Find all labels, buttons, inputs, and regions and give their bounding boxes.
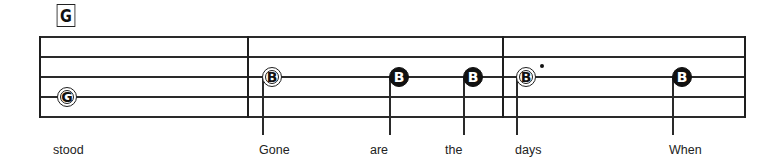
- barline-measure-1: [247, 36, 249, 118]
- staff-line-2: [39, 56, 746, 58]
- lyric-word: the: [445, 143, 462, 157]
- music-staff: G B B B B B: [0, 0, 784, 165]
- note-head-b-open: B: [262, 67, 282, 87]
- note-stem: [262, 77, 264, 135]
- note-head-b-open-dotted: B: [516, 67, 536, 87]
- barline-start: [39, 36, 41, 118]
- note-stem: [463, 77, 465, 135]
- note-head-b-filled: B: [389, 67, 409, 87]
- barline-end: [744, 36, 746, 118]
- staff-line-4: [39, 96, 746, 98]
- note-stem: [516, 77, 518, 135]
- note-letter: B: [267, 69, 278, 85]
- note-letter: B: [677, 69, 688, 85]
- note-head-g-open: G: [57, 87, 77, 107]
- staff-line-1: [39, 36, 746, 38]
- staff-line-5: [39, 116, 746, 118]
- lyric-word: When: [669, 143, 702, 157]
- note-letter: B: [468, 69, 479, 85]
- note-stem: [389, 77, 391, 135]
- augmentation-dot: [540, 64, 544, 68]
- note-letter: B: [521, 69, 532, 85]
- note-letter: B: [394, 69, 405, 85]
- barline-measure-2: [502, 36, 504, 118]
- note-stem: [672, 77, 674, 135]
- lyric-word: stood: [53, 143, 84, 157]
- lyric-word: are: [370, 143, 388, 157]
- lyric-word: Gone: [259, 143, 290, 157]
- note-head-b-filled: B: [672, 67, 692, 87]
- lyric-word: days: [515, 143, 541, 157]
- note-letter: G: [61, 89, 73, 105]
- note-head-b-filled: B: [463, 67, 483, 87]
